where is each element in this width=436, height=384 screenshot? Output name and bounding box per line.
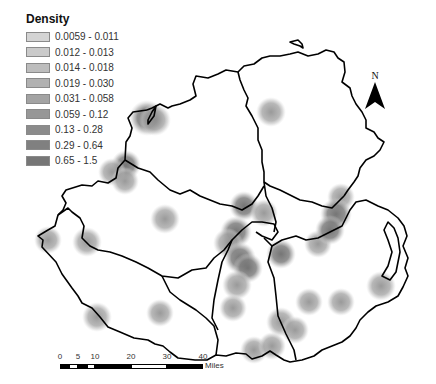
legend-swatch — [26, 47, 50, 57]
legend-label: 0.014 - 0.018 — [55, 62, 114, 73]
density-hotspot — [256, 97, 286, 127]
legend-swatch — [26, 78, 50, 88]
legend-title: Density — [26, 12, 119, 26]
north-label: N — [364, 70, 386, 81]
scale-tick: 0 — [58, 352, 62, 361]
legend-swatch — [26, 140, 50, 150]
legend-classes: 0.0059 - 0.0110.012 - 0.0130.014 - 0.018… — [26, 29, 119, 169]
legend-row: 0.059 - 0.12 — [26, 107, 119, 123]
density-hotspot — [366, 271, 396, 301]
scale-ticks: 0 5 10 20 30 40 — [58, 352, 203, 362]
legend: Density 0.0059 - 0.0110.012 - 0.0130.014… — [26, 12, 119, 169]
legend-swatch — [26, 63, 50, 73]
legend-row: 0.019 - 0.030 — [26, 76, 119, 92]
density-hotspot — [111, 167, 139, 195]
legend-swatch — [26, 156, 50, 166]
legend-swatch — [26, 94, 50, 104]
legend-row: 0.29 - 0.64 — [26, 138, 119, 154]
legend-row: 0.0059 - 0.011 — [26, 29, 119, 45]
density-hotspot — [146, 299, 174, 327]
scale-tick: 30 — [163, 352, 172, 361]
legend-label: 0.65 - 1.5 — [55, 155, 97, 166]
legend-label: 0.031 - 0.058 — [55, 93, 114, 104]
legend-label: 0.019 - 0.030 — [55, 78, 114, 89]
scale-bar-graphic — [58, 364, 203, 369]
boundary-derry-antrim — [238, 72, 264, 182]
scale-tick: 5 — [76, 352, 80, 361]
density-hotspot — [315, 215, 345, 245]
north-arrow-icon — [364, 81, 386, 111]
scale-unit: Miles — [205, 361, 224, 370]
density-hotspot — [150, 204, 180, 234]
legend-label: 0.13 - 0.28 — [55, 124, 103, 135]
legend-row: 0.65 - 1.5 — [26, 153, 119, 169]
scale-bar: 0 5 10 20 30 40 Miles — [58, 352, 203, 369]
legend-swatch — [26, 109, 50, 119]
legend-row: 0.014 - 0.018 — [26, 60, 119, 76]
legend-row: 0.012 - 0.013 — [26, 45, 119, 61]
density-hotspot — [219, 294, 247, 322]
density-hotspot — [281, 316, 309, 344]
legend-swatch — [26, 125, 50, 135]
scale-tick: 40 — [199, 352, 208, 361]
legend-label: 0.0059 - 0.011 — [55, 31, 119, 42]
legend-label: 0.012 - 0.013 — [55, 47, 114, 58]
rathlin-island — [290, 40, 303, 48]
legend-swatch — [26, 32, 50, 42]
scale-tick: 20 — [127, 352, 136, 361]
legend-label: 0.29 - 0.64 — [55, 140, 103, 151]
legend-label: 0.059 - 0.12 — [55, 109, 108, 120]
legend-row: 0.031 - 0.058 — [26, 91, 119, 107]
legend-row: 0.13 - 0.28 — [26, 122, 119, 138]
density-hotspot — [295, 288, 323, 316]
scale-tick: 10 — [91, 352, 100, 361]
strangford-lough — [382, 222, 400, 280]
north-arrow: N — [364, 70, 386, 115]
density-hotspot — [327, 288, 355, 316]
